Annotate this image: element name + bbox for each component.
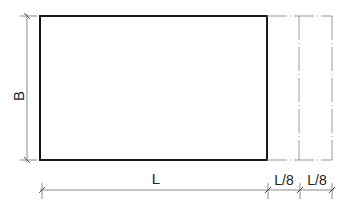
dimension-offset-1-label: L/8: [274, 172, 294, 188]
technical-drawing: B L L/8 L/8: [0, 0, 351, 216]
dimension-horizontal: L L/8 L/8: [39, 170, 335, 199]
dimension-b: B: [10, 13, 37, 163]
main-rectangle: [40, 16, 267, 160]
dimension-l-label: L: [152, 170, 160, 187]
dimension-offset-2-label: L/8: [307, 172, 327, 188]
dimension-b-label: B: [10, 91, 27, 101]
